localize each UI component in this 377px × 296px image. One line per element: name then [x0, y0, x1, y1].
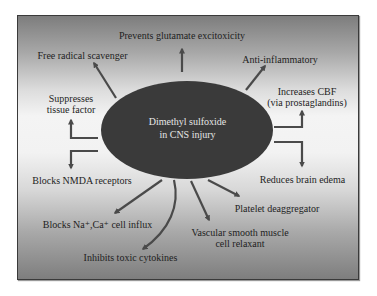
label-cbf: Increases CBF (via prostaglandins) — [262, 86, 352, 108]
center-label-line2: in CNS injury — [103, 128, 272, 141]
arrow-platelet — [208, 180, 239, 196]
arrow-vascular — [191, 181, 209, 220]
arrow-cbf — [274, 111, 302, 127]
label-free-radical: Free radical scavenger — [30, 50, 135, 61]
label-vascular: Vascular smooth muscle cell relaxant — [185, 227, 295, 249]
label-platelet: Platelet deaggregator — [228, 203, 326, 214]
label-edema: Reduces brain edema — [255, 174, 350, 185]
arrow-edema — [274, 142, 302, 166]
arrow-tissue-factor — [71, 120, 98, 138]
diagram-graphics — [0, 0, 377, 296]
label-na-ca: Blocks Na⁺,Ca⁺ cell influx — [40, 219, 155, 230]
label-tissue-factor: Suppresses tissue factor — [42, 93, 100, 115]
label-nmda: Blocks NMDA receptors — [32, 175, 132, 186]
arrow-nmda — [71, 151, 98, 168]
center-label-line1: Dimethyl sulfoxide — [103, 115, 272, 128]
label-anti-inflammatory: Anti-inflammatory — [235, 54, 325, 65]
label-glutamate: Prevents glutamate excitoxicity — [112, 30, 252, 41]
center-label: Dimethyl sulfoxide in CNS injury — [103, 115, 272, 141]
label-cytokines: Inhibits toxic cytokines — [78, 252, 183, 263]
